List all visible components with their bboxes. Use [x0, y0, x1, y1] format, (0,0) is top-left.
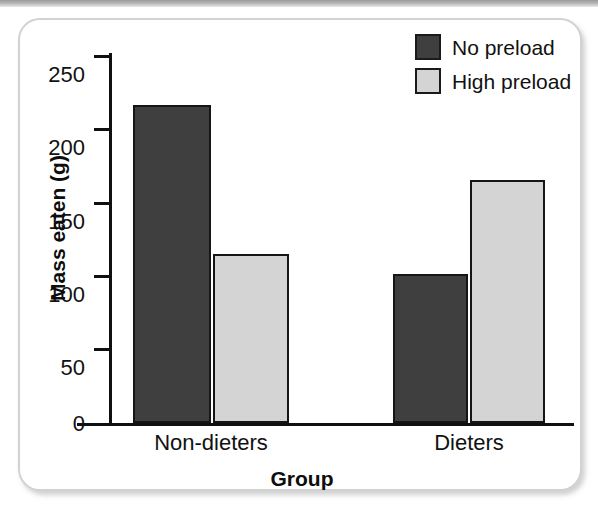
chart-legend: No preload High preload [415, 30, 585, 98]
bar-dieters-no-preload [393, 274, 468, 423]
y-axis-line [109, 53, 112, 425]
x-axis-line [77, 423, 574, 426]
y-tick-label-50: 50 [15, 357, 85, 379]
legend-swatch-no-preload-icon [415, 34, 441, 60]
bar-non-dieters-high-preload [213, 254, 289, 423]
y-tick-label-250: 250 [15, 64, 85, 86]
y-tick-label-0: 0 [15, 413, 85, 435]
figure-panel: 250 200 150 100 50 0 Mass eaten (g) Non-… [18, 18, 582, 491]
y-axis-title: Mass eaten (g) [46, 128, 70, 328]
legend-label-high-preload: High preload [452, 71, 571, 92]
x-axis-title: Group [20, 467, 584, 491]
legend-item-high-preload: High preload [415, 64, 585, 98]
bar-non-dieters-no-preload [133, 105, 211, 423]
x-tick-label-dieters: Dieters [369, 432, 569, 454]
y-tick-mark-150 [94, 202, 110, 205]
y-tick-mark-50 [94, 348, 110, 351]
legend-item-no-preload: No preload [415, 30, 585, 64]
legend-label-no-preload: No preload [452, 37, 555, 58]
page-top-edge [0, 0, 598, 7]
y-tick-mark-100 [94, 275, 110, 278]
x-tick-label-non-dieters: Non-dieters [111, 432, 311, 454]
bar-dieters-high-preload [470, 180, 545, 423]
legend-swatch-high-preload-icon [415, 68, 441, 94]
y-tick-mark-250 [94, 55, 110, 58]
y-tick-mark-200 [94, 128, 110, 131]
